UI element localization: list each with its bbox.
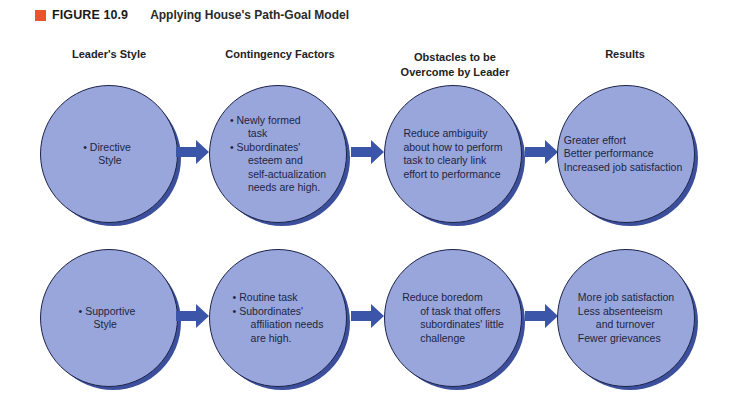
arrow-right-icon bbox=[351, 303, 385, 329]
text-line: • Subordinates' bbox=[230, 141, 326, 155]
arrow-right-icon bbox=[176, 139, 210, 165]
circle-directive-style: • Directive Style bbox=[40, 85, 178, 223]
text-line: self-actualization bbox=[230, 168, 326, 182]
circle-contingency-directive: • Newly formed task • Subordinates' este… bbox=[209, 85, 347, 223]
text-line: are high. bbox=[233, 332, 324, 346]
circle-text: Reduce ambiguity about how to perform ta… bbox=[403, 127, 502, 181]
text-line: subordinates' little bbox=[402, 318, 504, 332]
text-line: Better performance bbox=[564, 147, 682, 161]
circle-text: • Newly formed task • Subordinates' este… bbox=[230, 114, 326, 195]
column-header-contingency-factors: Contingency Factors bbox=[200, 47, 360, 62]
text-line: Fewer grievances bbox=[578, 332, 674, 346]
column-header-obstacles: Obstacles to be Overcome by Leader bbox=[375, 50, 535, 80]
circle-supportive-style: • Supportive Style bbox=[40, 249, 178, 387]
circle-obstacles-directive: Reduce ambiguity about how to perform ta… bbox=[384, 85, 522, 223]
text-line: about how to perform bbox=[403, 141, 502, 155]
text-line: and turnover bbox=[578, 318, 674, 332]
circle-text: • Directive Style bbox=[83, 141, 130, 168]
circle-results-directive: Greater effort Better performance Increa… bbox=[557, 85, 695, 223]
text-line: • Newly formed bbox=[230, 114, 326, 128]
circle-text: More job satisfaction Less absenteeism a… bbox=[578, 291, 674, 345]
text-line: Increased job satisfaction bbox=[564, 161, 682, 175]
column-header-leader-style: Leader's Style bbox=[29, 47, 189, 62]
figure-label: FIGURE 10.9 bbox=[52, 8, 128, 22]
circle-text: Greater effort Better performance Increa… bbox=[564, 134, 682, 175]
circle-text: Reduce boredom of task that offers subor… bbox=[402, 291, 504, 345]
circle-obstacles-supportive: Reduce boredom of task that offers subor… bbox=[384, 249, 522, 387]
text-line: Style bbox=[79, 318, 136, 332]
text-line: needs are high. bbox=[230, 181, 326, 195]
text-line: Less absenteeism bbox=[578, 305, 674, 319]
column-header-results: Results bbox=[545, 47, 705, 62]
circle-text: • Routine task • Subordinates' affiliati… bbox=[233, 291, 324, 345]
circle-contingency-supportive: • Routine task • Subordinates' affiliati… bbox=[209, 249, 347, 387]
circle-results-supportive: More job satisfaction Less absenteeism a… bbox=[557, 249, 695, 387]
text-line: affiliation needs bbox=[233, 318, 324, 332]
text-line: • Directive bbox=[83, 141, 130, 155]
column-header-obstacles-line1: Obstacles to be bbox=[375, 50, 535, 65]
text-line: Reduce boredom bbox=[402, 291, 504, 305]
text-line: of task that offers bbox=[402, 305, 504, 319]
arrow-right-icon bbox=[176, 303, 210, 329]
text-line: task to clearly link bbox=[403, 154, 502, 168]
column-header-obstacles-line2: Overcome by Leader bbox=[375, 65, 535, 80]
text-line: Style bbox=[83, 154, 130, 168]
text-line: • Subordinates' bbox=[233, 305, 324, 319]
text-line: challenge bbox=[402, 332, 504, 346]
arrow-right-icon bbox=[525, 139, 559, 165]
text-line: Reduce ambiguity bbox=[403, 127, 502, 141]
figure-header: FIGURE 10.9 Applying House's Path-Goal M… bbox=[35, 7, 349, 23]
text-line: • Supportive bbox=[79, 305, 136, 319]
figure-title: Applying House's Path-Goal Model bbox=[150, 8, 349, 22]
text-line: • Routine task bbox=[233, 291, 324, 305]
circle-text: • Supportive Style bbox=[79, 305, 136, 332]
text-line: More job satisfaction bbox=[578, 291, 674, 305]
text-line: task bbox=[230, 127, 326, 141]
text-line: esteem and bbox=[230, 154, 326, 168]
text-line: Greater effort bbox=[564, 134, 682, 148]
arrow-right-icon bbox=[525, 303, 559, 329]
arrow-right-icon bbox=[351, 139, 385, 165]
text-line: effort to performance bbox=[403, 168, 502, 182]
figure-marker-icon bbox=[35, 10, 46, 21]
